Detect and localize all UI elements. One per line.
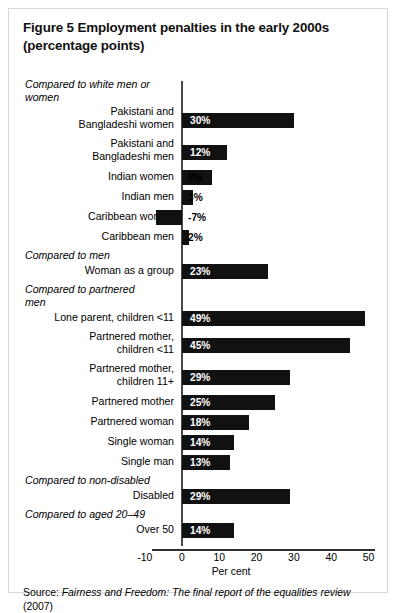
group-heading: Compared to partneredmen (25, 283, 205, 309)
category-label: Caribbean men (17, 230, 174, 243)
category-label: Indian women (17, 170, 174, 183)
category-label-line: Bangladeshi men (92, 150, 174, 162)
category-label: Partnered mother (17, 395, 174, 408)
bar-value-label: 2% (188, 230, 203, 245)
group-heading: Compared to non-disabled (25, 474, 205, 487)
x-axis-tick-label: -10 (130, 552, 160, 563)
source-note: Source: Fairness and Freedom: The final … (23, 586, 379, 613)
bar-value-label: 8% (188, 170, 203, 185)
bar-value-label: 3% (188, 190, 203, 205)
category-label: Caribbean women (17, 210, 174, 223)
bar-value-label: 12% (190, 145, 210, 160)
x-axis-tick-label: 50 (354, 552, 384, 563)
category-label: Pakistani andBangladeshi men (17, 137, 174, 163)
category-label: Partnered woman (17, 415, 174, 428)
category-label: Indian men (17, 190, 174, 203)
category-label-line: Partnered mother (92, 395, 174, 407)
source-title: Fairness and Freedom: The final report o… (62, 587, 351, 598)
group-heading-line: Compared to men (25, 249, 110, 261)
bar-value-label: 29% (190, 370, 210, 385)
bar-value-label: 29% (190, 489, 210, 504)
category-label-line: Partnered mother, (89, 330, 174, 342)
figure-title-line-1: Figure 5 Employment penalties in the ear… (23, 19, 375, 37)
group-heading: Compared to white men orwomen (25, 78, 205, 104)
chart-plot-area: Compared to white men orwomenPakistani a… (9, 77, 387, 549)
category-label-line: Indian women (108, 170, 174, 182)
figure-container: Figure 5 Employment penalties in the ear… (8, 8, 388, 593)
x-axis-tick-label: 30 (279, 552, 309, 563)
category-label: Pakistani andBangladeshi women (17, 105, 174, 131)
category-label: Partnered mother,children 11+ (17, 362, 174, 388)
category-label-line: Pakistani and (110, 137, 174, 149)
bar-value-label: 13% (190, 455, 210, 470)
group-heading: Compared to aged 20–49 (25, 508, 205, 521)
group-heading-line: men (25, 296, 46, 308)
group-heading-line: Compared to aged 20–49 (25, 508, 145, 520)
category-label-line: Indian men (122, 190, 174, 202)
category-label-line: Woman as a group (85, 264, 174, 276)
group-heading-line: women (25, 91, 59, 103)
x-axis-tick-label: 10 (204, 552, 234, 563)
bar-value-label: 25% (190, 395, 210, 410)
bar-value-label: 23% (190, 264, 210, 279)
category-label-line: Single woman (107, 435, 174, 447)
category-label-line: Partnered woman (90, 415, 174, 427)
bar-value-label: 14% (190, 523, 210, 538)
group-heading: Compared to men (25, 249, 205, 262)
bar-value-label: -7% (188, 210, 206, 225)
bar-value-label: 14% (190, 435, 210, 450)
bar-value-label: 30% (190, 113, 210, 128)
category-label-line: Disabled (133, 489, 174, 501)
x-axis-tick-label: 20 (242, 552, 272, 563)
category-label: Disabled (17, 489, 174, 502)
source-prefix: Source: (23, 587, 59, 598)
x-axis-tick-label: 0 (167, 552, 197, 563)
category-label-line: children <11 (117, 343, 174, 355)
category-label: Over 50 (17, 523, 174, 536)
figure-title: Figure 5 Employment penalties in the ear… (23, 19, 375, 55)
bar (156, 210, 182, 225)
category-label-line: Lone parent, children <11 (54, 311, 174, 323)
bar-value-label: 49% (190, 311, 210, 326)
x-axis-title: Per cent (181, 566, 281, 577)
bar-value-label: 18% (190, 415, 210, 430)
x-axis-tick-label: 40 (316, 552, 346, 563)
category-label-line: children 11+ (117, 375, 174, 387)
category-label-line: Bangladeshi women (79, 118, 174, 130)
group-heading-line: Compared to white men or (25, 78, 150, 90)
category-label-line: Pakistani and (110, 105, 174, 117)
x-axis-line (152, 549, 375, 551)
figure-title-line-2: (percentage points) (23, 37, 375, 55)
source-year: (2007) (23, 601, 53, 612)
category-label: Single man (17, 455, 174, 468)
x-axis: -1001020304050 Per cent (9, 549, 387, 589)
category-label-line: Partnered mother, (89, 362, 174, 374)
category-label-line: Caribbean men (102, 230, 174, 242)
category-label: Partnered mother,children <11 (17, 330, 174, 356)
category-label: Woman as a group (17, 264, 174, 277)
bar-value-label: 45% (190, 338, 210, 353)
category-label-line: Single man (121, 455, 174, 467)
category-label: Single woman (17, 435, 174, 448)
group-heading-line: Compared to partnered (25, 283, 135, 295)
group-heading-line: Compared to non-disabled (25, 474, 150, 486)
category-label-line: Over 50 (136, 523, 174, 535)
category-label: Lone parent, children <11 (17, 311, 174, 324)
